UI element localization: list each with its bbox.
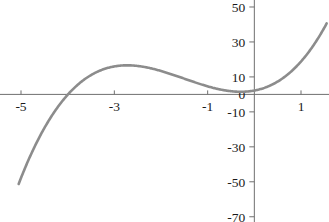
y-tick-label-10: 10 [232,70,246,85]
x-tick-label-1: 1 [298,99,305,114]
x-tick-label--1: -1 [202,99,213,114]
cubic-function-plot: -5-3-11 5030100-10-30-50-70 [0,0,329,222]
y-tick-label-0: 0 [239,87,246,102]
y-tick-label-30: 30 [232,35,246,50]
y-tick-label-50: 50 [232,0,246,15]
cubic-curve [19,23,327,184]
y-tick-label--50: -50 [227,175,245,190]
x-axis-group: -5-3-11 [0,90,329,114]
y-tick-marks [249,7,254,217]
x-tick-label--5: -5 [15,99,26,114]
x-tick-marks [21,90,301,94]
y-tick-label--70: -70 [227,210,245,222]
y-tick-label--10: -10 [227,105,245,120]
chart-container: · · · · · · · · · · · · · · · · -5-3-11 … [0,0,329,222]
y-tick-label--30: -30 [227,140,245,155]
x-tick-label--3: -3 [109,99,120,114]
y-tick-label-group: 5030100-10-30-50-70 [227,0,245,222]
y-axis-group: 5030100-10-30-50-70 [227,0,254,222]
